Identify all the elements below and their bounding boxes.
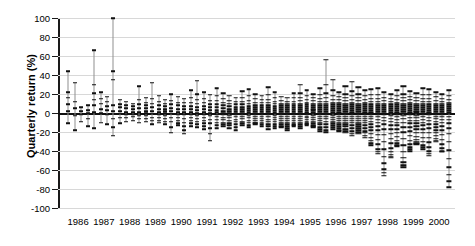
data-point-marker [176,120,180,122]
data-point-marker [202,128,206,130]
data-point-marker [285,129,290,131]
y-tick-label: -20 [36,127,50,138]
y-tick-mark [52,75,58,76]
data-point-marker [208,123,212,125]
data-point-marker [99,103,103,105]
data-point-marker [202,114,206,116]
data-point-marker [394,89,399,91]
data-point-marker [407,140,412,142]
data-point-marker [279,100,284,102]
data-point-marker [420,88,425,90]
data-point-marker [234,104,239,106]
data-point-marker [388,143,393,145]
data-point-marker [189,97,193,99]
data-point-marker [137,118,141,120]
data-point-marker [375,126,380,128]
data-point-marker [227,103,232,105]
data-point-marker [150,82,154,84]
data-point-marker [298,84,303,86]
data-point-marker [272,97,277,99]
data-point-marker [234,121,239,123]
data-point-marker [144,102,148,104]
data-point-marker [427,124,432,126]
data-point-marker [73,82,77,84]
data-point-marker [118,123,122,125]
data-point-marker [124,101,128,103]
data-point-marker [163,99,167,101]
data-point-marker [202,120,206,122]
data-point-marker [227,125,232,127]
data-point-marker [169,132,173,134]
data-point-marker [182,98,186,100]
data-point-marker [356,97,361,99]
x-tick-label: 1995 [300,216,321,227]
data-point-marker [157,105,161,107]
data-point-marker [137,99,141,101]
data-point-marker [259,99,264,101]
x-tick-label: 1998 [377,216,398,227]
data-point-marker [369,124,374,126]
data-point-marker [388,147,393,149]
data-point-marker [118,104,122,106]
y-tick-mark [52,132,58,133]
data-point-marker [176,125,180,127]
data-point-marker [375,122,380,124]
data-point-marker [189,126,193,128]
data-point-marker [401,93,406,95]
data-point-marker [336,130,341,132]
data-point-marker [176,102,180,104]
data-point-marker [111,118,115,120]
gridline [58,170,455,171]
data-point-marker [401,112,406,114]
data-point-marker [407,127,412,129]
data-point-marker [253,98,258,100]
data-point-marker [420,94,425,96]
data-point-marker [446,89,451,91]
data-point-marker [440,93,445,95]
data-point-marker [66,104,70,106]
data-point-marker [195,127,199,129]
data-point-marker [240,90,245,92]
data-point-marker [433,132,438,134]
data-point-marker [382,91,387,93]
data-point-marker [349,127,354,129]
data-point-marker [202,102,206,104]
data-point-marker [214,125,219,127]
data-point-marker [375,144,380,146]
data-point-marker [388,125,393,127]
data-point-marker [394,128,399,130]
data-point-marker [375,153,380,155]
data-point-marker [317,124,322,126]
data-point-marker [137,86,141,88]
data-point-marker [92,105,96,107]
x-tick-label: 1997 [351,216,372,227]
data-point-marker [388,101,393,103]
data-point-marker [182,133,186,135]
data-point-marker [427,117,432,119]
data-point-marker [163,124,167,126]
data-point-marker [382,156,387,158]
data-point-marker [214,100,219,102]
data-point-marker [163,103,167,105]
data-point-marker [189,120,193,122]
data-point-marker [118,107,122,109]
data-point-marker [86,105,90,107]
data-point-marker [259,95,264,97]
data-point-marker [92,92,96,94]
x-tick-label: 1987 [93,216,114,227]
data-point-marker [279,96,284,98]
data-point-marker [336,91,341,93]
data-point-marker [446,141,451,143]
data-point-marker [343,126,348,128]
data-point-marker [99,108,103,110]
data-point-marker [86,109,90,111]
data-point-marker [427,127,432,129]
data-point-marker [182,114,186,116]
data-point-marker [266,87,271,89]
data-point-marker [169,104,173,106]
data-point-marker [208,112,212,114]
data-point-marker [137,111,141,113]
data-point-marker [394,132,399,134]
data-point-marker [414,136,419,138]
data-point-marker [382,120,387,122]
